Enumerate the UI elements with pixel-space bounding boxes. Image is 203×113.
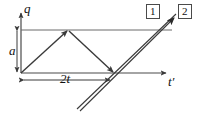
spacetime-diagram: q a 2t t′ 1 2 (0, 0, 203, 113)
pulse-rising-segment (21, 31, 67, 73)
frame-label-2: 2 (178, 4, 192, 19)
frame-label-1: 1 (146, 4, 160, 19)
amplitude-label: a (9, 44, 16, 57)
pulse-falling-segment (69, 31, 113, 72)
duration-label: 2t (60, 72, 70, 85)
worldline-rail-lower (80, 18, 174, 111)
axis-label-q: q (24, 2, 31, 15)
diagram-canvas (0, 0, 203, 113)
axis-label-tprime: t′ (168, 75, 174, 88)
worldline-rail-upper (77, 14, 176, 109)
